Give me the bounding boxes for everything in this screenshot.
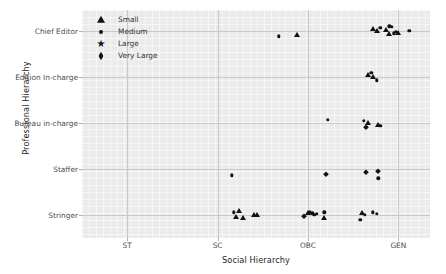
x-tick-label-gen: GEN (390, 241, 406, 250)
data-point (277, 35, 280, 38)
vertical-gridline (398, 10, 399, 238)
data-point (359, 218, 362, 221)
x-axis-title: Social Hierarchy (82, 255, 430, 265)
data-point (390, 25, 393, 28)
x-tick-label-st: ST (123, 241, 132, 250)
legend: SmallMedium★LargeVery Large (96, 14, 182, 68)
horizontal-gridline (82, 77, 430, 78)
y-tick-mark (79, 31, 82, 32)
data-point (321, 215, 327, 220)
vertical-gridline (308, 10, 309, 238)
x-tick-mark (308, 238, 309, 241)
data-point (408, 29, 411, 32)
legend-label: Small (118, 15, 139, 24)
legend-item-medium[interactable]: Medium (96, 26, 182, 38)
x-tick-mark (398, 238, 399, 241)
y-tick-mark (79, 215, 82, 216)
data-point (395, 30, 401, 35)
data-point (375, 79, 378, 82)
data-point (254, 212, 260, 217)
legend-item-large[interactable]: ★Large (96, 38, 182, 50)
vertical-gridline (218, 10, 219, 238)
legend-label: Very Large (118, 51, 158, 60)
data-point (379, 124, 382, 127)
data-point (230, 174, 233, 177)
data-point (377, 176, 380, 179)
y-tick-mark (79, 123, 82, 124)
y-tick-mark (79, 169, 82, 170)
y-tick-label-stringer: Stringer (0, 210, 78, 219)
y-tick-label-bureau-in-charge: Bureau in-charge (0, 118, 78, 127)
y-tick-label-chief-editor: Chief Editor (0, 26, 78, 35)
data-point (323, 211, 326, 214)
legend-item-small[interactable]: Small (96, 14, 182, 26)
legend-item-very-large[interactable]: Very Large (96, 50, 182, 62)
data-point (326, 118, 329, 121)
x-tick-label-sc: SC (213, 241, 223, 250)
x-tick-mark (218, 238, 219, 241)
y-tick-label-edition-in-charge: Edition In-charge (0, 72, 78, 81)
scatter-plot-figure: Professional Hierarchy Social Hierarchy … (0, 0, 446, 274)
data-point (294, 32, 300, 37)
legend-label: Large (118, 39, 139, 48)
y-tick-label-staffer: Staffer (0, 164, 78, 173)
y-tick-mark (79, 77, 82, 78)
x-tick-mark (127, 238, 128, 241)
legend-label: Medium (118, 27, 148, 36)
data-point (363, 213, 366, 216)
data-point (240, 215, 246, 220)
data-point (324, 171, 329, 176)
x-tick-label-obc: OBC (300, 241, 316, 250)
data-point (233, 214, 239, 219)
data-point (236, 208, 242, 213)
data-point (379, 26, 382, 29)
